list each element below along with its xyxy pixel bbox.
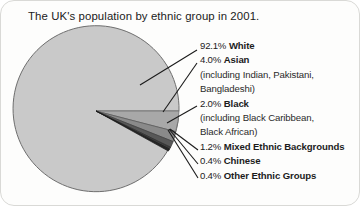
legend-item-black[interactable]: 2.0% Black	[200, 99, 360, 113]
legend-percent: 92.1%	[200, 40, 226, 51]
legend-sub-black-1: (including Black Caribbean,	[200, 113, 360, 127]
legend-label: White	[229, 40, 255, 51]
legend-item-white[interactable]: 92.1% White	[200, 41, 360, 55]
legend-sub-asian-1: (including Indian, Pakistani,	[200, 70, 360, 84]
legend-item-mixed[interactable]: 1.2% Mixed Ethnic Backgrounds	[200, 142, 360, 156]
legend-percent: 0.4%	[200, 155, 221, 166]
legend-item-chinese[interactable]: 0.4% Chinese	[200, 156, 360, 170]
legend-percent: 4.0%	[200, 54, 221, 65]
legend-sub-asian-2: Bangladeshi)	[200, 84, 360, 98]
legend-label: Other Ethnic Groups	[224, 170, 316, 181]
legend: 92.1% White 4.0% Asian (including Indian…	[200, 41, 360, 185]
legend-label: Asian	[224, 54, 250, 65]
pie-slice-white[interactable]	[13, 26, 179, 192]
legend-item-other[interactable]: 0.4% Other Ethnic Groups	[200, 171, 360, 185]
legend-label: Black	[224, 98, 249, 109]
legend-percent: 0.4%	[200, 170, 221, 181]
legend-sub-black-2: Black African)	[200, 127, 360, 141]
legend-label: Mixed Ethnic Backgrounds	[224, 141, 345, 152]
leader-line-other	[168, 130, 198, 178]
chart-card: The UK's population by ethnic group in 2…	[0, 0, 360, 206]
legend-percent: 2.0%	[200, 98, 221, 109]
legend-label: Chinese	[224, 155, 261, 166]
legend-item-asian[interactable]: 4.0% Asian	[200, 55, 360, 69]
legend-percent: 1.2%	[200, 141, 221, 152]
